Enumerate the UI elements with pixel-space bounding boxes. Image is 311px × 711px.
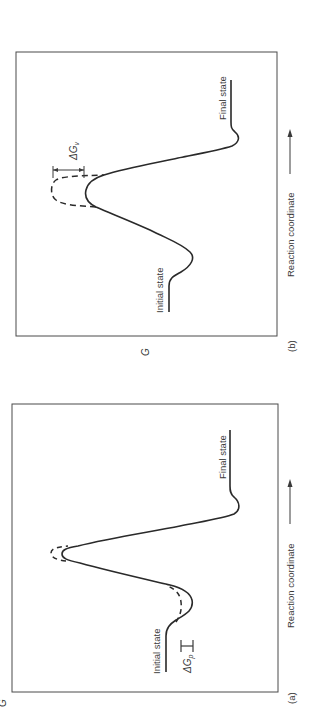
panel-a-initial-state-label: Initial state: [151, 629, 162, 674]
panel-a: ΔGp Initial state Final state G Reaction…: [0, 404, 297, 707]
panel-a-frame: [12, 404, 278, 692]
panel-b-x-axis-label: Reaction coordinate: [285, 193, 296, 278]
panel-b-frame: [16, 52, 277, 336]
panel-b-delta-label: ΔGv: [68, 142, 80, 162]
panel-a-caption: (a): [286, 692, 297, 704]
panel-a-x-axis-arrow-icon: [288, 479, 293, 524]
panel-a-dashed-well: [168, 586, 181, 622]
panel-b-x-axis-arrow-icon: [288, 129, 293, 174]
panel-b-y-axis-label: G: [140, 348, 151, 356]
panel-a-delta-bracket: [181, 640, 193, 652]
panel-a-y-axis-label: G: [0, 699, 8, 707]
panel-b-delta-bracket: [53, 166, 84, 178]
panel-a-delta-label: ΔGp: [182, 655, 195, 675]
panel-a-final-state-label: Final state: [217, 435, 228, 479]
panel-b-caption: (b): [286, 340, 297, 352]
panel-a-x-axis-label: Reaction coordinate: [285, 544, 296, 629]
figure-canvas: ΔGv Initial state Final state G Reaction…: [0, 0, 311, 711]
panel-b-final-state-label: Final state: [217, 76, 228, 120]
panel-b-initial-state-label: Initial state: [154, 268, 165, 313]
panel-b: ΔGv Initial state Final state G Reaction…: [16, 52, 297, 356]
panel-b-dashed-peak: [52, 175, 105, 207]
